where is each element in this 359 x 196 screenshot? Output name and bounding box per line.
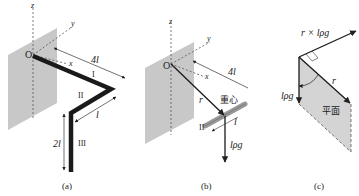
z-axis-label: z xyxy=(31,2,34,10)
length-2l-label: 2l xyxy=(53,139,61,149)
plane xyxy=(299,57,351,152)
length-l-label: l xyxy=(234,117,237,127)
length-l-label: l xyxy=(96,110,99,120)
vector-r-label: r xyxy=(332,76,336,86)
wall-plate xyxy=(145,42,194,144)
dim-4l xyxy=(193,61,248,88)
segment-1-label: I xyxy=(92,71,95,79)
y-axis-label: y xyxy=(207,35,211,43)
x-axis-label: x xyxy=(69,60,73,68)
origin-label: O xyxy=(163,61,170,71)
plane-label: 平面 xyxy=(322,107,340,116)
panel-a-figure xyxy=(8,8,125,172)
caption-a: (a) xyxy=(62,182,72,191)
segment-3-label: III xyxy=(78,140,86,148)
cross-product-label: r × lρg xyxy=(301,28,329,38)
segment-2-label: II xyxy=(199,124,204,132)
caption-c: (c) xyxy=(314,182,324,191)
length-4l-label: 4l xyxy=(91,55,99,65)
center-of-mass-label: 重心 xyxy=(220,96,238,105)
segment-2-label: II xyxy=(78,92,83,100)
y-axis-label: y xyxy=(71,20,75,28)
panel-c-figure xyxy=(299,31,356,152)
z-axis-label: z xyxy=(169,18,172,26)
caption-b: (b) xyxy=(201,182,212,191)
length-4l-label: 4l xyxy=(228,67,236,77)
force-label: lρg xyxy=(230,140,243,150)
origin-label: O xyxy=(25,50,32,60)
diagram: z y x O 4l I II l 2l III (a) z y x O 4l … xyxy=(0,0,359,196)
force-label: lρg xyxy=(281,91,294,101)
x-axis-label: x xyxy=(205,73,209,81)
vector-r-label: r xyxy=(199,95,203,105)
